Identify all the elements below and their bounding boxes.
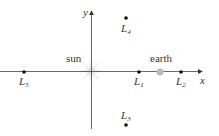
y-axis-label: y: [82, 6, 88, 18]
earth-label: earth: [150, 52, 172, 64]
label-l1: L1: [133, 75, 144, 89]
point-l2: [179, 70, 183, 74]
point-l3: [124, 123, 128, 127]
sun-label: sun: [66, 52, 82, 64]
label-l3: L3: [120, 109, 131, 123]
point-l4: [124, 16, 128, 20]
x-axis-label: x: [199, 74, 205, 86]
label-l4: L4: [120, 22, 131, 36]
earth-icon: [157, 69, 164, 76]
label-l5: L5: [18, 75, 29, 89]
lagrange-points-diagram: y x sun earth L1 L2 L3 L4 L5: [0, 0, 219, 136]
point-l1: [137, 70, 141, 74]
label-l2: L2: [175, 75, 186, 89]
sun-icon: [80, 60, 102, 82]
point-l5: [22, 70, 26, 74]
